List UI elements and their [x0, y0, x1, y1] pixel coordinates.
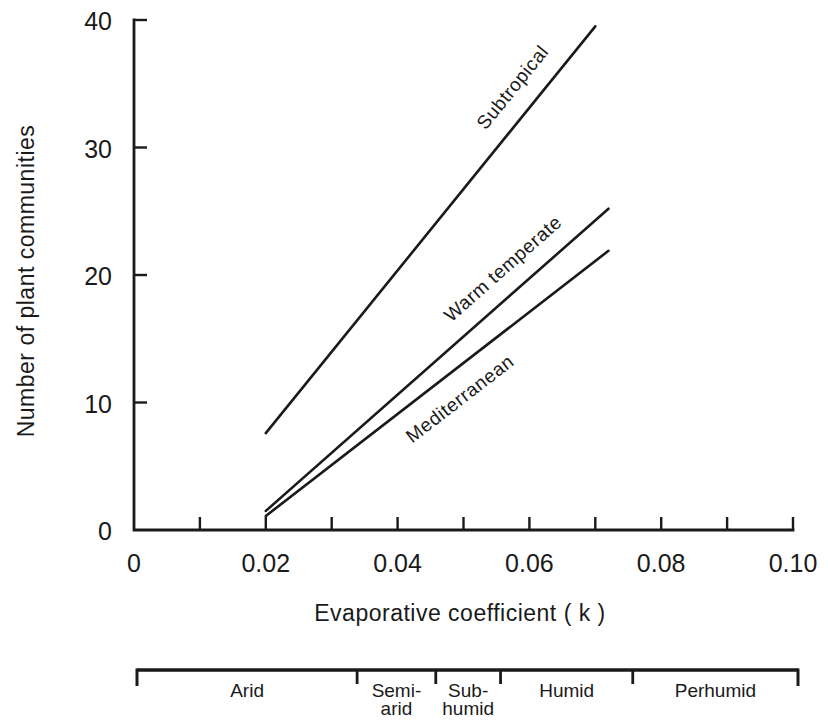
- series-line-warm-temperate: [266, 209, 609, 511]
- x-axis-title: Evaporative coefficient ( k ): [314, 600, 605, 627]
- x-tick-label-0.02: 0.02: [241, 549, 290, 577]
- zone-label-sub-humid-line2: humid: [442, 698, 494, 719]
- zone-label-humid: Humid: [539, 680, 594, 701]
- x-tick-label-0.1: 0.10: [769, 549, 818, 577]
- y-axis-title: Number of plant communities: [13, 125, 40, 438]
- x-tick-label-0.08: 0.08: [637, 549, 686, 577]
- axes: [134, 20, 793, 530]
- series-line-mediterranean: [266, 251, 609, 516]
- zone-label-perhumid: Perhumid: [675, 680, 756, 701]
- x-tick-label-0.04: 0.04: [373, 549, 422, 577]
- y-tick-label-30: 30: [84, 135, 112, 163]
- y-tick-label-40: 40: [84, 7, 112, 35]
- plant-communities-figure: 01020304000.020.040.060.080.10Subtropica…: [0, 0, 828, 727]
- x-tick-label-0: 0: [127, 549, 141, 577]
- zone-label-arid: Arid: [230, 680, 264, 701]
- y-tick-label-0: 0: [98, 517, 112, 545]
- series-label-warm-temperate: Warm temperate: [440, 211, 566, 325]
- y-tick-label-10: 10: [84, 390, 112, 418]
- series-label-subtropical: Subtropical: [472, 41, 552, 133]
- zone-label-semi-arid-line2: arid: [381, 698, 413, 719]
- x-tick-label-0.06: 0.06: [505, 549, 554, 577]
- y-tick-label-20: 20: [84, 262, 112, 290]
